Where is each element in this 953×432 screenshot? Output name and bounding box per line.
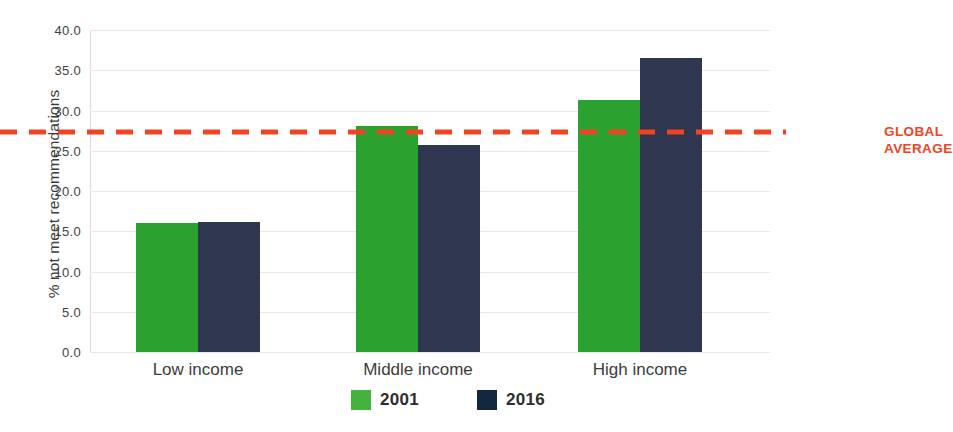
chart-legend: 20012016 xyxy=(0,390,896,410)
x-axis-category-label: Low income xyxy=(153,360,244,380)
global-average-label-line1: GLOBAL xyxy=(884,123,953,140)
y-axis-tick-label: 10.0 xyxy=(54,264,81,279)
legend-item-2016[interactable]: 2016 xyxy=(477,390,545,410)
y-axis-tick-label: 15.0 xyxy=(54,224,81,239)
bar-2001-high-income[interactable] xyxy=(578,100,640,352)
y-axis-tick-label: 30.0 xyxy=(54,103,81,118)
bar-group xyxy=(136,30,260,352)
legend-item-2001[interactable]: 2001 xyxy=(351,390,419,410)
bar-2016-low-income[interactable] xyxy=(198,222,260,352)
bar-2016-middle-income[interactable] xyxy=(418,145,480,352)
x-axis-category-label: High income xyxy=(593,360,688,380)
bar-2001-low-income[interactable] xyxy=(136,223,198,352)
bar-group xyxy=(578,30,702,352)
global-average-label: GLOBALAVERAGE xyxy=(884,123,953,157)
global-average-label-line2: AVERAGE xyxy=(884,140,953,157)
bar-group xyxy=(356,30,480,352)
y-axis-tick-label: 35.0 xyxy=(54,63,81,78)
bar-2016-high-income[interactable] xyxy=(640,58,702,352)
gridline xyxy=(90,352,770,353)
plot-area: 40.035.030.025.020.015.010.05.00.0 xyxy=(90,30,770,352)
global-average-line xyxy=(0,130,786,135)
y-axis-tick-label: 20.0 xyxy=(54,184,81,199)
y-axis-tick-label: 5.0 xyxy=(62,304,81,319)
y-axis-tick-label: 0.0 xyxy=(62,345,81,360)
x-axis-category-label: Middle income xyxy=(363,360,473,380)
legend-label: 2001 xyxy=(380,390,419,410)
bar-2001-middle-income[interactable] xyxy=(356,126,418,352)
y-axis-tick-label: 25.0 xyxy=(54,143,81,158)
y-axis-tick-label: 40.0 xyxy=(54,23,81,38)
legend-swatch-icon xyxy=(351,390,371,410)
legend-label: 2016 xyxy=(506,390,545,410)
legend-swatch-icon xyxy=(477,390,497,410)
